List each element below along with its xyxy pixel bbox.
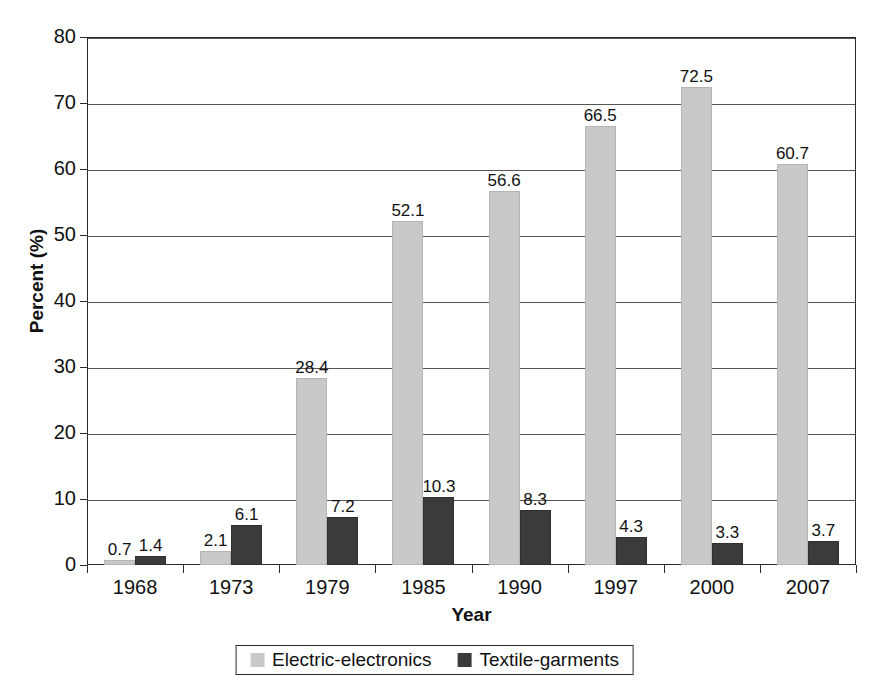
- bar[interactable]: 72.5: [681, 87, 712, 566]
- legend-label: Textile-garments: [480, 650, 619, 669]
- x-axis-tick-label: 1973: [176, 576, 286, 599]
- bar-group: 52.110.3: [375, 37, 471, 565]
- bar-group: 72.53.3: [664, 37, 760, 565]
- bar-chart-figure: Percent (%) 01020304050607080 0.71.42.16…: [0, 0, 869, 697]
- x-axis-tick-label: 1997: [561, 576, 671, 599]
- y-axis-tick-label: 10: [16, 487, 76, 510]
- bar[interactable]: 60.7: [777, 164, 808, 565]
- bar-value-label: 28.4: [295, 359, 328, 376]
- bar-value-label: 0.7: [108, 541, 132, 558]
- y-axis-tick-label: 40: [16, 289, 76, 312]
- legend-swatch: [458, 653, 472, 667]
- bar-group: 0.71.4: [87, 37, 183, 565]
- x-axis-tick-label: 1985: [368, 576, 478, 599]
- bar[interactable]: 6.1: [231, 525, 262, 565]
- bar-value-label: 4.3: [619, 518, 643, 535]
- x-axis-tick-mark: [87, 565, 88, 573]
- bar[interactable]: 4.3: [616, 537, 647, 565]
- bar-value-label: 10.3: [422, 478, 455, 495]
- bar-value-label: 56.6: [488, 172, 521, 189]
- y-axis-tick-label: 0: [16, 553, 76, 576]
- y-axis-tick-label: 50: [16, 223, 76, 246]
- bar[interactable]: 66.5: [585, 126, 616, 565]
- x-axis-title: Year: [87, 604, 856, 626]
- x-axis-tick-label: 2007: [753, 576, 863, 599]
- y-axis-tick-label: 60: [16, 157, 76, 180]
- x-axis-tick-mark: [183, 565, 184, 573]
- x-axis-tick-mark: [279, 565, 280, 573]
- x-axis-tick-mark: [375, 565, 376, 573]
- legend-item[interactable]: Textile-garments: [458, 650, 619, 669]
- bar-group: 60.73.7: [760, 37, 856, 565]
- bar-value-label: 3.3: [715, 524, 739, 541]
- bar-value-label: 66.5: [584, 107, 617, 124]
- bar-group: 56.68.3: [472, 37, 568, 565]
- legend-label: Electric-electronics: [272, 650, 431, 669]
- x-axis-tick-label: 2000: [657, 576, 767, 599]
- x-axis-tick-mark: [760, 565, 761, 573]
- bar-group: 66.54.3: [568, 37, 664, 565]
- bar-group: 2.16.1: [183, 37, 279, 565]
- bar[interactable]: 56.6: [489, 191, 520, 565]
- bar[interactable]: 0.7: [104, 560, 135, 565]
- x-axis-tick-label: 1979: [272, 576, 382, 599]
- bar-value-label: 2.1: [204, 532, 228, 549]
- legend-swatch: [250, 653, 264, 667]
- bar-groups: 0.71.42.16.128.47.252.110.356.68.366.54.…: [87, 37, 856, 565]
- bar-value-label: 7.2: [331, 498, 355, 515]
- x-axis-tick-mark: [568, 565, 569, 573]
- bar-value-label: 8.3: [523, 491, 547, 508]
- bar[interactable]: 7.2: [327, 517, 358, 565]
- bar[interactable]: 8.3: [520, 510, 551, 565]
- bar-value-label: 72.5: [680, 68, 713, 85]
- bar-value-label: 52.1: [391, 202, 424, 219]
- bar-group: 28.47.2: [279, 37, 375, 565]
- bar-value-label: 60.7: [776, 145, 809, 162]
- y-axis-tick-label: 30: [16, 355, 76, 378]
- bar-value-label: 1.4: [139, 537, 163, 554]
- chart-legend: Electric-electronicsTextile-garments: [235, 645, 634, 675]
- x-axis-tick-mark: [472, 565, 473, 573]
- bar[interactable]: 3.3: [712, 543, 743, 565]
- bar[interactable]: 10.3: [423, 497, 454, 565]
- bar[interactable]: 28.4: [296, 378, 327, 565]
- x-axis-tick-label: 1990: [465, 576, 575, 599]
- bar[interactable]: 2.1: [200, 551, 231, 565]
- x-axis-tick-mark: [856, 565, 857, 573]
- legend-item[interactable]: Electric-electronics: [250, 650, 431, 669]
- y-axis-tick-label: 80: [16, 25, 76, 48]
- bar[interactable]: 52.1: [392, 221, 423, 565]
- x-axis-tick-mark: [664, 565, 665, 573]
- y-axis-tick-label: 20: [16, 421, 76, 444]
- bar-value-label: 3.7: [812, 522, 836, 539]
- bar-value-label: 6.1: [235, 506, 259, 523]
- y-axis-tick-label: 70: [16, 91, 76, 114]
- bar[interactable]: 3.7: [808, 541, 839, 565]
- bar[interactable]: 1.4: [135, 556, 166, 565]
- x-axis-tick-label: 1968: [80, 576, 190, 599]
